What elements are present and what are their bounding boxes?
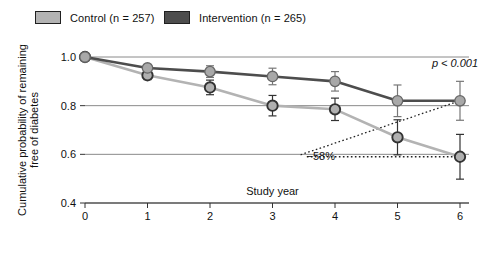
chart-text-group: 1.00.80.60.40123456Study yearCumulative … bbox=[16, 44, 478, 222]
x-tick-label: 0 bbox=[82, 210, 88, 222]
data-point-marker bbox=[142, 63, 152, 73]
chart-svg: 1.00.80.60.40123456Study yearCumulative … bbox=[0, 0, 494, 260]
x-axis-group bbox=[85, 203, 469, 208]
data-point-marker bbox=[455, 96, 465, 106]
data-point-marker bbox=[455, 152, 465, 162]
data-point-marker bbox=[205, 66, 215, 76]
data-point-marker bbox=[330, 76, 340, 86]
data-point-marker bbox=[330, 104, 340, 114]
x-tick-label: 3 bbox=[269, 210, 275, 222]
data-series-group bbox=[80, 52, 465, 179]
x-tick-label: 5 bbox=[394, 210, 400, 222]
data-point-marker bbox=[392, 96, 402, 106]
x-tick-label: 4 bbox=[332, 210, 338, 222]
p-value-annotation: p < 0.001 bbox=[431, 57, 478, 69]
figure-container: Control (n = 257) Intervention (n = 265)… bbox=[0, 0, 494, 260]
x-tick-label: 1 bbox=[144, 210, 150, 222]
data-point-marker bbox=[267, 71, 277, 81]
svg-text:free of diabetes: free of diabetes bbox=[28, 92, 40, 168]
y-tick-label: 1.0 bbox=[61, 51, 76, 63]
data-point-marker bbox=[392, 132, 402, 142]
chart-plot-area: 1.00.80.60.40123456Study yearCumulative … bbox=[0, 0, 494, 260]
x-tick-label: 2 bbox=[207, 210, 213, 222]
x-axis-title: Study year bbox=[246, 185, 299, 197]
data-point-marker bbox=[205, 82, 215, 92]
data-point-marker bbox=[80, 52, 90, 62]
y-tick-label: 0.4 bbox=[61, 197, 76, 209]
data-point-marker bbox=[267, 100, 277, 110]
svg-text:Cumulative probability of rema: Cumulative probability of remaining bbox=[16, 44, 28, 216]
reduction-annotation: −58% bbox=[307, 150, 336, 162]
y-axis-ticks-group bbox=[80, 57, 85, 203]
y-tick-label: 0.6 bbox=[61, 148, 76, 160]
x-tick-label: 6 bbox=[457, 210, 463, 222]
y-axis-title: Cumulative probability of remainingfree … bbox=[16, 44, 40, 216]
y-tick-label: 0.8 bbox=[61, 100, 76, 112]
